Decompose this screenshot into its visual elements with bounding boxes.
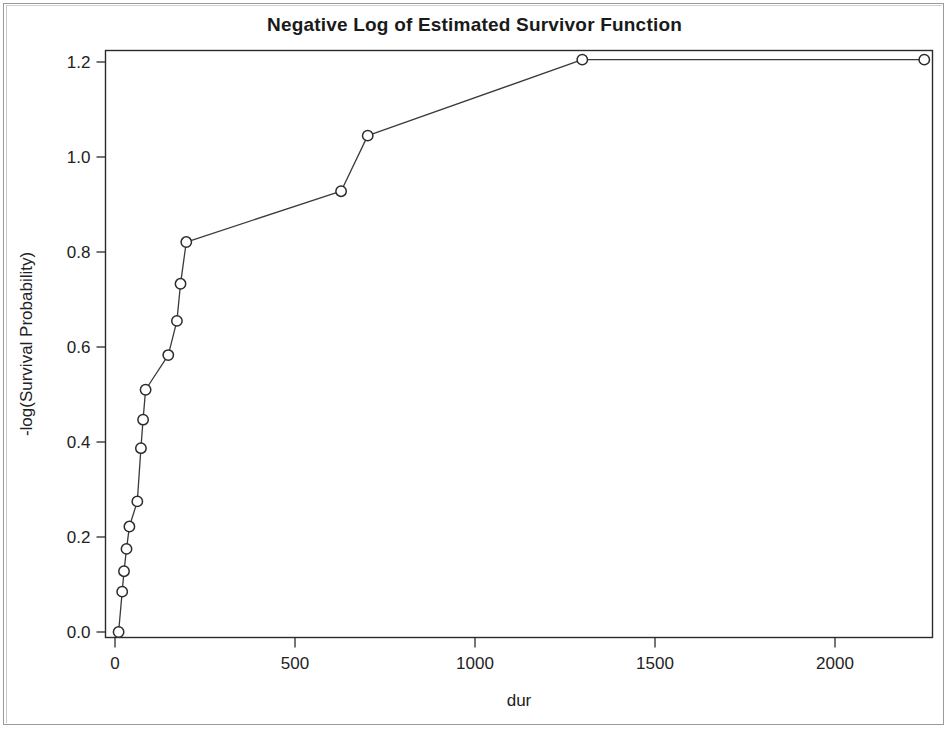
data-point-marker <box>117 586 127 596</box>
plot-frame <box>106 51 933 638</box>
y-tick-label: 0.8 <box>67 243 91 262</box>
x-axis-ticks <box>115 638 835 648</box>
x-tick-label: 2000 <box>816 654 854 673</box>
x-tick-label: 1000 <box>456 654 494 673</box>
y-tick-label: 0.6 <box>67 338 91 357</box>
data-point-marker <box>163 350 173 360</box>
x-axis-tick-labels: 0500100015002000 <box>110 654 854 673</box>
data-point-marker <box>175 279 185 289</box>
x-tick-label: 500 <box>281 654 309 673</box>
chart-figure: Negative Log of Estimated Survivor Funct… <box>0 0 949 733</box>
data-point-marker <box>919 54 929 64</box>
data-point-marker <box>140 385 150 395</box>
data-point-marker <box>121 544 131 554</box>
y-axis-title: -log(Survival Probability) <box>17 252 36 436</box>
data-point-marker <box>132 496 142 506</box>
data-point-marker <box>124 521 134 531</box>
data-point-marker <box>136 443 146 453</box>
survivor-function-line <box>119 60 925 632</box>
data-point-marker <box>119 566 129 576</box>
data-point-marker <box>113 627 123 637</box>
data-point-marker <box>138 414 148 424</box>
data-point-marker <box>336 186 346 196</box>
x-axis-title: dur <box>507 691 532 710</box>
y-tick-label: 1.2 <box>67 53 91 72</box>
y-axis-tick-labels: 0.00.20.40.60.81.01.2 <box>67 53 91 642</box>
y-tick-label: 0.2 <box>67 528 91 547</box>
x-tick-label: 1500 <box>636 654 674 673</box>
data-point-marker <box>181 237 191 247</box>
x-tick-label: 0 <box>110 654 119 673</box>
y-tick-label: 0.4 <box>67 433 91 452</box>
y-tick-label: 0.0 <box>67 623 91 642</box>
data-point-marker <box>363 130 373 140</box>
y-axis-ticks <box>97 62 106 632</box>
data-point-marker <box>172 316 182 326</box>
survivor-function-markers <box>113 54 929 637</box>
y-tick-label: 1.0 <box>67 148 91 167</box>
plot-area: 0.00.20.40.60.81.01.2 0500100015002000 d… <box>0 0 949 733</box>
data-point-marker <box>577 54 587 64</box>
